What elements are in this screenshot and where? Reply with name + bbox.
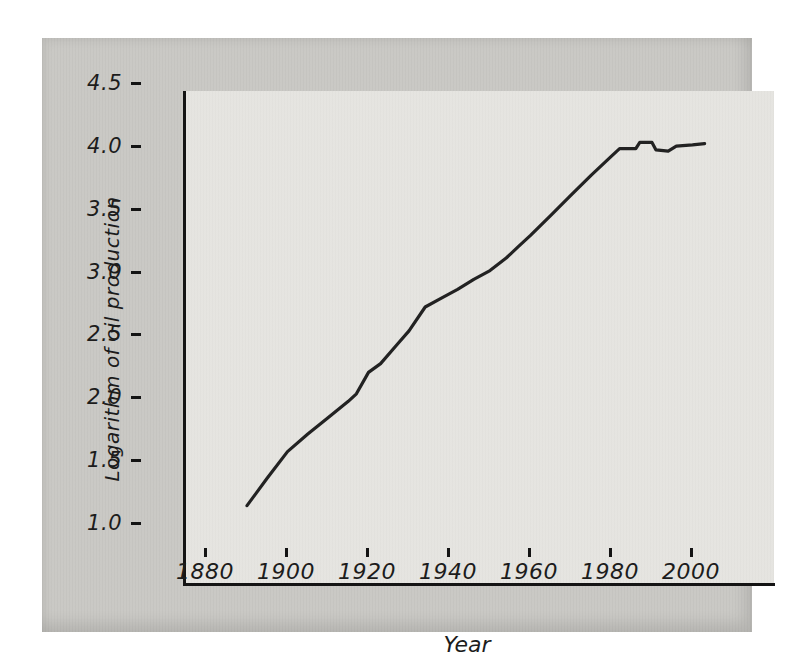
x-tick-mark [528,548,531,557]
x-tick-label: 1960 [484,561,574,583]
x-tick-mark [285,548,288,557]
x-tick-mark [447,548,450,557]
y-tick-mark [131,82,141,85]
y-tick-mark [131,271,141,274]
y-tick-mark [131,145,141,148]
y-tick-mark [131,522,141,525]
x-tick-mark [690,548,693,557]
y-tick-mark [131,396,141,399]
y-axis-title: Logarithm of oil production [102,179,126,499]
x-tick-mark [204,548,207,557]
y-axis-line [183,91,186,586]
production-line [247,142,705,505]
x-tick-mark [366,548,369,557]
x-tick-label: 1880 [160,561,250,583]
x-tick-mark [609,548,612,557]
y-tick-mark [131,333,141,336]
scanned-page: 4.54.03.53.02.52.01.51.0 188019001920194… [0,0,785,667]
y-tick-label: 4.5 [40,73,122,94]
y-tick-mark [131,459,141,462]
x-tick-label: 2000 [646,561,736,583]
oil-production-line-chart [185,91,774,584]
x-tick-label: 1900 [241,561,331,583]
chart-panel: 4.54.03.53.02.52.01.51.0 188019001920194… [42,38,752,632]
x-tick-label: 1940 [403,561,493,583]
y-tick-label: 4.0 [40,136,122,157]
x-axis-title: Year [412,634,522,656]
y-tick-label: 1.0 [40,513,122,534]
x-tick-label: 1920 [322,561,412,583]
y-tick-mark [131,208,141,211]
x-tick-label: 1980 [565,561,655,583]
